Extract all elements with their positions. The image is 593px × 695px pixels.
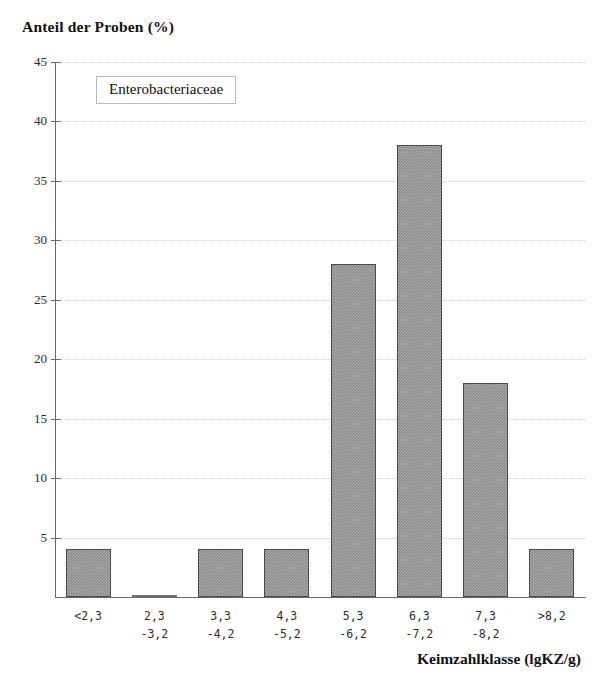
x-tick-label-line2: -4,2 [188, 626, 254, 644]
y-tick-mark [51, 181, 61, 182]
x-tick-label-line1: 2,3 [144, 609, 165, 623]
x-tick-label: 2,3-3,2 [121, 608, 187, 644]
x-tick-label: 5,3-6,2 [320, 608, 386, 644]
x-axis [55, 597, 586, 598]
x-tick-label: 4,3-5,2 [254, 608, 320, 644]
legend-label: Enterobacteriaceae [109, 81, 223, 97]
y-tick-mark [51, 121, 61, 122]
y-tick-mark [51, 62, 61, 63]
gridline [55, 240, 585, 241]
x-axis-title: Keimzahlklasse (lgKZ/g) [417, 650, 581, 668]
bar [397, 145, 442, 597]
x-tick-label-line2: -6,2 [320, 626, 386, 644]
y-tick-mark [51, 240, 61, 241]
y-tick-mark [51, 538, 61, 539]
legend-box: Enterobacteriaceae [96, 76, 236, 104]
gridline [55, 62, 585, 63]
y-tick-label: 30 [34, 232, 47, 248]
x-tick-label: <2,3 [55, 608, 121, 626]
bar [331, 264, 376, 597]
x-tick-label: 3,3-4,2 [188, 608, 254, 644]
gridline [55, 121, 585, 122]
plot-area [55, 62, 585, 597]
y-tick-label: 5 [41, 530, 48, 546]
gridline [55, 181, 585, 182]
x-tick-label-line1: 7,3 [475, 609, 496, 623]
y-tick-label: 45 [34, 54, 47, 70]
x-tick-label-line1: >8,2 [538, 609, 566, 623]
y-axis-title: Anteil der Proben (%) [22, 18, 174, 36]
x-tick-label-line2: -3,2 [121, 626, 187, 644]
x-tick-label: 7,3-8,2 [453, 608, 519, 644]
bar [66, 549, 111, 597]
x-tick-label-line1: 5,3 [343, 609, 364, 623]
x-tick-label-line2: -5,2 [254, 626, 320, 644]
x-tick-label: 6,3-7,2 [386, 608, 452, 644]
y-tick-label: 40 [34, 113, 47, 129]
y-tick-label: 25 [34, 292, 47, 308]
y-tick-label: 20 [34, 351, 47, 367]
gridline [55, 359, 585, 360]
x-tick-label-line1: 3,3 [210, 609, 231, 623]
y-tick-mark [51, 359, 61, 360]
x-tick-label-line1: <2,3 [74, 609, 102, 623]
x-tick-label-line2: -7,2 [386, 626, 452, 644]
y-axis: 45403530252015105 [55, 62, 56, 598]
y-tick-label: 35 [34, 173, 47, 189]
y-tick-label: 10 [34, 470, 47, 486]
bar [529, 549, 574, 597]
x-tick-label-line1: 4,3 [276, 609, 297, 623]
y-tick-mark [51, 300, 61, 301]
x-tick-label-line2: -8,2 [453, 626, 519, 644]
x-tick-label: >8,2 [519, 608, 585, 626]
bar [198, 549, 243, 597]
x-tick-label-line1: 6,3 [409, 609, 430, 623]
gridline [55, 300, 585, 301]
y-tick-label: 15 [34, 411, 47, 427]
bar [264, 549, 309, 597]
y-tick-mark [51, 419, 61, 420]
y-tick-mark [51, 478, 61, 479]
bar [463, 383, 508, 597]
